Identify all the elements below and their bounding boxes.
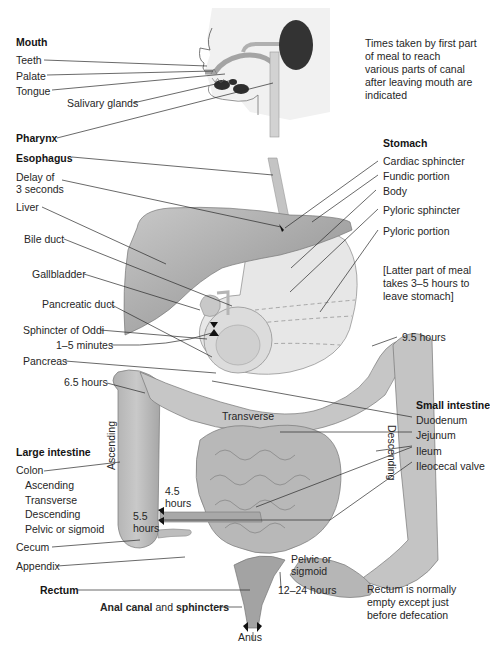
label-liver: Liver [16, 201, 39, 214]
label-teeth: Teeth [16, 54, 42, 67]
diagram-label-transverse: Transverse [222, 410, 274, 423]
label-ileocecal-valve: Ileocecal valve [416, 460, 485, 473]
label-ileum: Ileum [416, 445, 442, 458]
label-sphincter-of-oddi: Sphincter of Oddi [23, 324, 104, 337]
label-anal-canal: Anal canal and sphincters [100, 601, 229, 614]
label-time-6-5-hours: 6.5 hours [64, 376, 108, 389]
label-fundic-portion: Fundic portion [383, 170, 450, 183]
label-salivary-glands: Salivary glands [67, 97, 138, 110]
label-anus: Anus [238, 631, 262, 644]
label-appendix: Appendix [16, 560, 60, 573]
label-pharynx: Pharynx [16, 132, 57, 145]
label-palate: Palate [16, 70, 46, 83]
label-time-12-24-hours: 12–24 hours [278, 584, 336, 597]
label-colon-descending: Descending [25, 508, 80, 521]
label-cardiac-sphincter: Cardiac sphincter [383, 155, 465, 168]
label-pyloric-sphincter: Pyloric sphincter [383, 204, 460, 217]
label-colon-ascending: Ascending [25, 479, 74, 492]
mouth-header: Mouth [16, 36, 48, 49]
label-time-4-5-unit: hours [165, 497, 191, 510]
label-duodenum: Duodenum [416, 414, 467, 427]
label-pancreatic-duct: Pancreatic duct [42, 298, 114, 311]
note-rectum: Rectum is normally empty except just bef… [367, 583, 467, 622]
label-delay-line2: 3 seconds [16, 183, 64, 196]
label-time-5-5-unit: hours [133, 522, 159, 535]
small-intestine-header: Small intestine [416, 399, 490, 412]
gallbladder [200, 295, 220, 316]
label-cecum: Cecum [16, 541, 49, 554]
dark-mass-icon [279, 20, 313, 70]
label-time-1-5-minutes: 1–5 minutes [56, 339, 113, 352]
label-gallbladder: Gallbladder [32, 268, 86, 281]
large-intestine-header: Large intestine [16, 446, 91, 459]
anal-and-text: and [153, 601, 176, 613]
anal-canal-text: Anal canal [100, 601, 153, 613]
label-colon-transverse: Transverse [25, 494, 77, 507]
label-rectum: Rectum [40, 584, 79, 597]
label-body: Body [383, 185, 407, 198]
label-time-9-5-hours: 9.5 hours [402, 331, 446, 344]
diagram-label-ascending: Ascending [105, 421, 117, 470]
label-tongue: Tongue [16, 85, 50, 98]
label-pancreas: Pancreas [23, 355, 67, 368]
stomach-header: Stomach [383, 137, 427, 150]
label-colon: Colon [16, 464, 43, 477]
note-stomach: [Latter part of meal takes 3–5 hours to … [383, 264, 483, 303]
label-pyloric-portion: Pyloric portion [383, 225, 450, 238]
diagram-label-sigmoid: sigmoid [291, 565, 327, 578]
label-jejunum: Jejunum [416, 429, 456, 442]
label-bile-duct: Bile duct [24, 233, 64, 246]
label-esophagus: Esophagus [16, 152, 73, 165]
note-times: Times taken by first part of meal to rea… [365, 37, 477, 102]
head-outline [200, 8, 331, 120]
label-colon-pelvic-sigmoid: Pelvic or sigmoid [25, 523, 104, 536]
sphincters-text: sphincters [176, 601, 229, 613]
diagram-label-descending: Descending [386, 425, 398, 480]
